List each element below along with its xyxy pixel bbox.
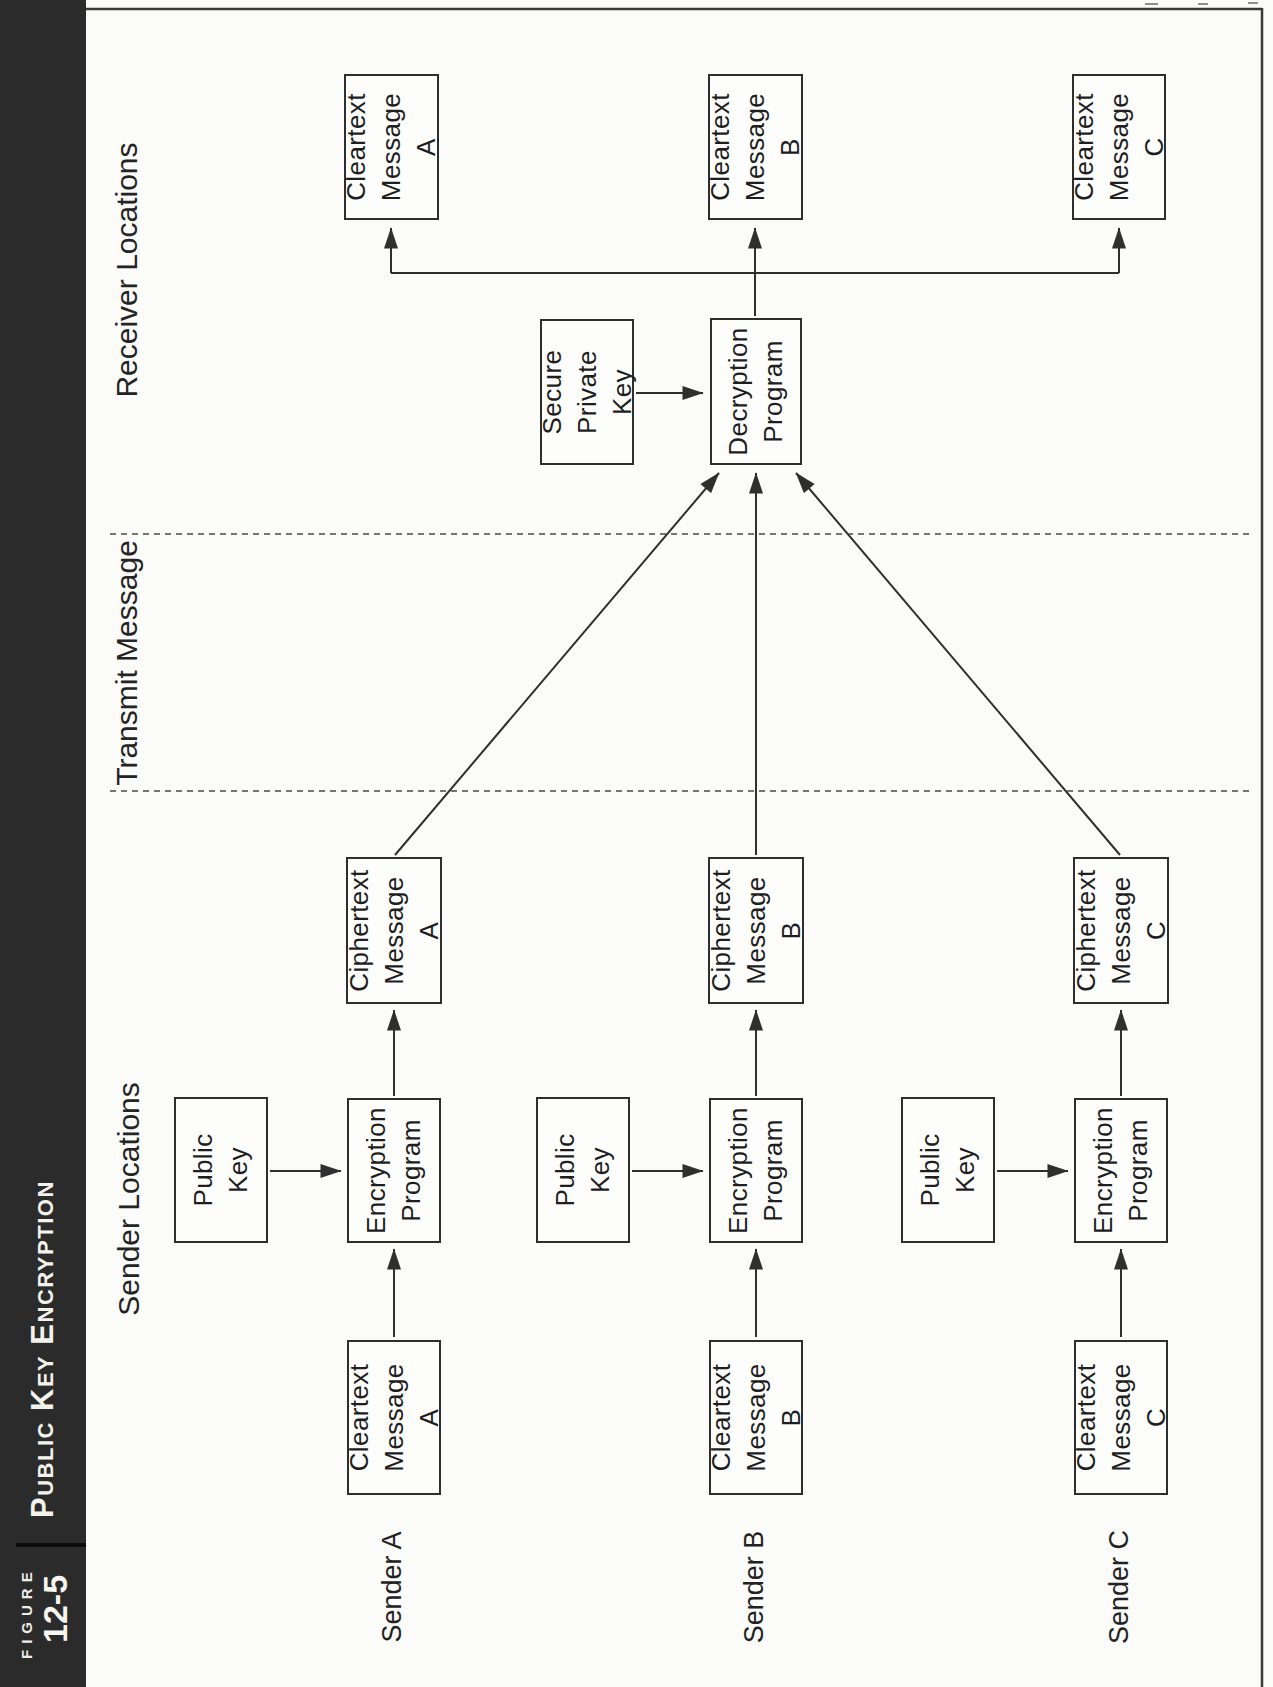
sender-a-label: Sender A (377, 1517, 408, 1657)
receiver-cleartext-a-box: Cleartext Message A (344, 74, 439, 220)
sender-a-cleartext-box: Cleartext Message A (347, 1340, 441, 1495)
sender-c-cleartext-box: Cleartext Message C (1074, 1340, 1168, 1495)
sender-a-ciphertext-box: Ciphertext Message A (346, 857, 442, 1004)
sender-b-public-key-box: Public Key (536, 1097, 630, 1243)
section-header-receiver: Receiver Locations (110, 140, 144, 400)
receiver-branch (391, 228, 1119, 316)
sender-b-encryption-box: Encryption Program (709, 1098, 803, 1243)
transmit-arrow-c (796, 473, 1120, 855)
transmit-arrow-a (395, 473, 719, 855)
figure-canvas: FIGURE 12-5 Public Key Encryption (0, 0, 1273, 1687)
decryption-program-box: Decryption Program (710, 318, 802, 465)
section-header-senders: Sender Locations (112, 1069, 146, 1329)
page-edge-artifact (1145, 3, 1258, 4)
sender-c-ciphertext-box: Ciphertext Message C (1073, 857, 1169, 1004)
sender-a-encryption-box: Encryption Program (347, 1098, 441, 1243)
receiver-cleartext-c-box: Cleartext Message C (1072, 74, 1166, 220)
section-header-transmit: Transmit Message (110, 533, 144, 793)
sender-b-ciphertext-box: Ciphertext Message B (708, 857, 804, 1004)
secure-private-key-box: Secure Private Key (540, 319, 634, 465)
sender-c-label: Sender C (1104, 1517, 1135, 1657)
scanned-page: FIGURE 12-5 Public Key Encryption (0, 0, 1273, 1687)
sender-a-public-key-box: Public Key (174, 1097, 268, 1243)
sender-b-label: Sender B (739, 1517, 770, 1657)
receiver-cleartext-b-box: Cleartext Message B (708, 74, 803, 220)
sender-c-encryption-box: Encryption Program (1074, 1098, 1168, 1243)
sender-c-public-key-box: Public Key (901, 1097, 995, 1243)
sender-b-cleartext-box: Cleartext Message B (709, 1340, 803, 1495)
region-divider-dashed-lines (110, 534, 1250, 791)
